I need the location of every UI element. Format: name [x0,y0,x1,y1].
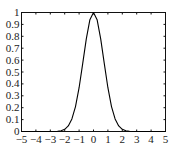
x-tick-label: 1 [105,133,111,145]
y-tick-label: 0 [14,125,20,137]
y-tick-label: 0.9 [6,18,20,30]
series-line [22,13,166,132]
x-tick-label: −4 [30,133,42,145]
y-axis-ticks [22,13,166,132]
plot-frame [22,13,166,132]
x-tick-label: −3 [44,133,56,145]
y-tick-label: 0.8 [6,30,20,42]
x-tick-label: 5 [163,133,169,145]
y-tick-label: 0.5 [6,66,20,78]
x-axis-ticks [22,13,166,132]
y-tick-label: 1 [14,6,20,18]
x-axis-tick-labels: −5−4−3−2−1012345 [16,133,169,145]
plot-series [22,13,166,132]
y-tick-label: 0.7 [6,42,20,54]
x-tick-label: −1 [73,133,85,145]
x-tick-label: 3 [134,133,140,145]
y-tick-label: 0.6 [6,54,20,66]
y-tick-label: 0.1 [6,113,20,125]
y-tick-label: 0.2 [6,101,20,113]
x-tick-label: 2 [120,133,126,145]
x-tick-label: 4 [148,133,154,145]
axes-frame [22,13,166,132]
gaussian-chart: −5−4−3−2−1012345 00.10.20.30.40.50.60.70… [0,0,170,150]
y-axis-tick-labels: 00.10.20.30.40.50.60.70.80.91 [6,6,20,137]
y-tick-label: 0.3 [6,89,20,101]
x-tick-label: 0 [91,133,97,145]
x-tick-label: −2 [59,133,71,145]
y-tick-label: 0.4 [6,77,20,89]
